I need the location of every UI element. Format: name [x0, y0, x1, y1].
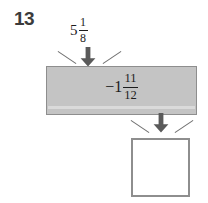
output-funnel-tick-right — [175, 120, 194, 133]
input-fraction: 1 8 — [79, 16, 88, 44]
operation-value-label: −1 11 12 — [47, 67, 196, 107]
arrow-down-icon — [80, 47, 96, 67]
function-machine-diagram: 13 5 1 8 −1 11 12 — [0, 0, 208, 203]
operation-fraction-numerator: 11 — [123, 72, 137, 85]
input-whole-number: 5 — [70, 23, 78, 38]
operation-fraction: 11 12 — [123, 72, 138, 101]
answer-box[interactable] — [131, 138, 190, 197]
input-value-label: 5 1 8 — [70, 17, 88, 43]
output-funnel-tick-left — [131, 120, 150, 133]
operation-fraction-denominator: 12 — [123, 89, 138, 102]
operation-whole-number: −1 — [105, 79, 122, 95]
problem-number: 13 — [14, 9, 34, 28]
input-funnel-tick-right — [103, 51, 122, 64]
input-fraction-numerator: 1 — [79, 16, 87, 29]
operation-bar: −1 11 12 — [46, 66, 197, 115]
arrow-down-icon — [153, 113, 169, 133]
input-fraction-denominator: 8 — [79, 32, 87, 45]
input-funnel-tick-left — [58, 51, 77, 64]
input-mixed-number: 5 1 8 — [70, 16, 88, 44]
operation-mixed-number: −1 11 12 — [105, 72, 138, 101]
